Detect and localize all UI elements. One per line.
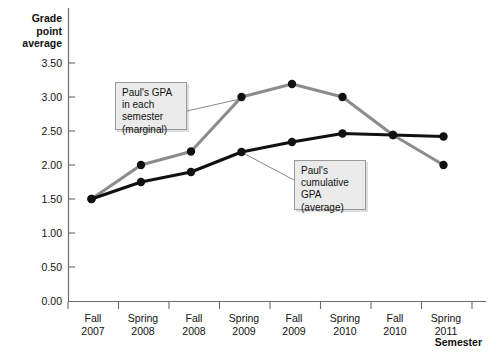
- x-tick-label-fall-2010-line1: Fall: [387, 312, 404, 324]
- x-tick-label-spring-2008-line1: Spring: [128, 312, 158, 324]
- x-tick-label-fall-2010-line2: 2010: [383, 325, 406, 337]
- annotation-marginal-line2: in each: [122, 99, 181, 111]
- x-tick-label-fall-2008-line2: 2008: [182, 325, 205, 337]
- x-tick-label-spring-2011-line1: Spring: [431, 312, 461, 324]
- x-axis-title: Semester: [392, 336, 482, 349]
- annotation-cumulative-line1: Paul's: [301, 165, 360, 177]
- x-tick-label-fall-2007-line2: 2007: [81, 325, 104, 337]
- x-tick-label-spring-2011: Spring 2011: [415, 312, 477, 337]
- x-tick-label-fall-2009-line1: Fall: [286, 312, 303, 324]
- x-tick-label-spring-2011-line2: 2011: [435, 325, 458, 337]
- annotation-cumulative: Paul's cumulative GPA (average): [294, 160, 366, 210]
- x-tick-label-spring-2009-line1: Spring: [229, 312, 259, 324]
- x-tick-label-spring-2010-line2: 2010: [333, 325, 356, 337]
- annotation-cumulative-line2: cumulative: [301, 177, 360, 189]
- annotation-cumulative-line3: GPA: [301, 189, 360, 201]
- x-tick-label-fall-2009-line2: 2009: [282, 325, 305, 337]
- x-tick-label-spring-2009-line2: 2009: [232, 325, 255, 337]
- annotation-marginal: Paul's GPA in each semester (marginal): [115, 82, 187, 130]
- annotation-cumulative-line4: (average): [301, 202, 360, 214]
- annotation-marginal-line1: Paul's GPA: [122, 87, 181, 99]
- x-tick-label-fall-2007-line1: Fall: [85, 312, 102, 324]
- annotation-marginal-line3: semester: [122, 111, 181, 123]
- x-tick-label-fall-2008-line1: Fall: [186, 312, 203, 324]
- x-tick-label-spring-2010-line1: Spring: [330, 312, 360, 324]
- annotation-marginal-line4: (marginal): [122, 124, 181, 136]
- gpa-line-chart: Grade point average 3.50 3.00 2.50 2.00 …: [0, 0, 497, 359]
- plot-area: [0, 0, 497, 359]
- x-tick-label-spring-2008-line2: 2008: [131, 325, 154, 337]
- leader-line-cumulative: [243, 153, 294, 180]
- x-tick-marks: [68, 302, 472, 309]
